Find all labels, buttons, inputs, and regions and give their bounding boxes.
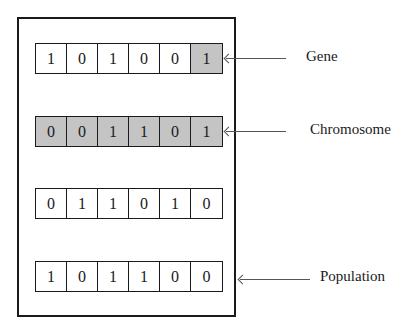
gene-cell: 1 (129, 262, 160, 291)
gene-cell: 0 (129, 189, 160, 218)
gene-cell: 1 (98, 44, 129, 73)
gene-cell: 0 (160, 117, 191, 146)
chromosome-row-4: 101100 (35, 261, 223, 292)
gene-cell: 1 (98, 262, 129, 291)
gene-cell: 0 (191, 189, 222, 218)
chromosome-arrow (226, 131, 286, 132)
chromosome-label: Chromosome (310, 121, 391, 138)
gene-cell: 1 (191, 44, 222, 73)
gene-cell: 0 (36, 117, 67, 146)
gene-cell: 0 (67, 44, 98, 73)
gene-cell: 1 (129, 117, 160, 146)
gene-cell: 0 (129, 44, 160, 73)
gene-cell: 1 (36, 262, 67, 291)
gene-cell: 1 (160, 189, 191, 218)
chromosome-row-2: 001101 (35, 116, 223, 147)
gene-cell: 1 (98, 117, 129, 146)
gene-cell: 1 (36, 44, 67, 73)
gene-label: Gene (306, 48, 338, 65)
gene-arrow (226, 58, 286, 59)
gene-cell: 0 (67, 262, 98, 291)
gene-cell: 0 (160, 262, 191, 291)
gene-cell: 0 (36, 189, 67, 218)
gene-cell: 1 (98, 189, 129, 218)
chromosome-row-1: 101001 (35, 43, 223, 74)
gene-cell: 0 (191, 262, 222, 291)
gene-cell: 1 (67, 189, 98, 218)
gene-cell: 0 (67, 117, 98, 146)
chromosome-row-3: 011010 (35, 188, 223, 219)
gene-cell: 1 (191, 117, 222, 146)
gene-cell: 0 (160, 44, 191, 73)
population-label: Population (320, 268, 385, 285)
population-arrow (240, 279, 310, 280)
